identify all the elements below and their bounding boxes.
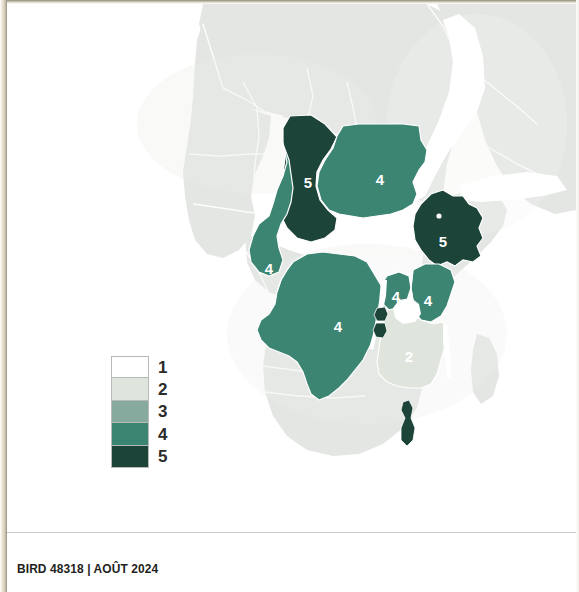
legend-swatch-3	[111, 401, 149, 423]
africa-map-svg: 5 4 5 4 4 4 4	[7, 4, 576, 532]
legend-label-3: 3	[158, 403, 167, 420]
legend-item[interactable]: 2	[111, 378, 199, 400]
legend-label-2: 2	[158, 381, 167, 398]
legend-swatch-1	[111, 356, 149, 378]
footer-credit: BIRD 48318 | AOÛT 2024	[17, 561, 158, 576]
city-marker-addis	[436, 213, 441, 218]
country-label-sudan: 4	[376, 171, 385, 188]
legend-item[interactable]: 5	[111, 446, 199, 468]
scan-artifact-top-edge	[7, 0, 579, 4]
legend-item[interactable]: 3	[111, 401, 199, 423]
choropleth-legend: 1 2 3 4 5	[111, 356, 199, 468]
country-label-kenya: 4	[424, 292, 433, 309]
scan-artifact-left-edge	[0, 0, 7, 592]
country-label-tanzania: 2	[405, 348, 413, 365]
legend-label-5: 5	[158, 448, 167, 465]
country-label-cameroon: 4	[265, 260, 274, 277]
legend-label-4: 4	[158, 426, 167, 443]
legend-item[interactable]: 1	[111, 356, 199, 378]
map-canvas[interactable]: 5 4 5 4 4 4 4	[7, 4, 576, 532]
legend-swatch-5	[111, 446, 149, 468]
country-label-drc: 4	[334, 318, 343, 335]
legend-label-1: 1	[158, 359, 167, 376]
country-label-chad: 5	[304, 174, 312, 191]
map-footer: BIRD 48318 | AOÛT 2024	[7, 532, 579, 592]
country-rwanda[interactable]	[374, 307, 388, 321]
country-label-ethiopia: 5	[439, 233, 447, 250]
map-page: 5 4 5 4 4 4 4	[0, 0, 579, 592]
legend-swatch-4	[111, 423, 149, 445]
legend-item[interactable]: 4	[111, 423, 199, 445]
legend-swatch-2	[111, 378, 149, 400]
